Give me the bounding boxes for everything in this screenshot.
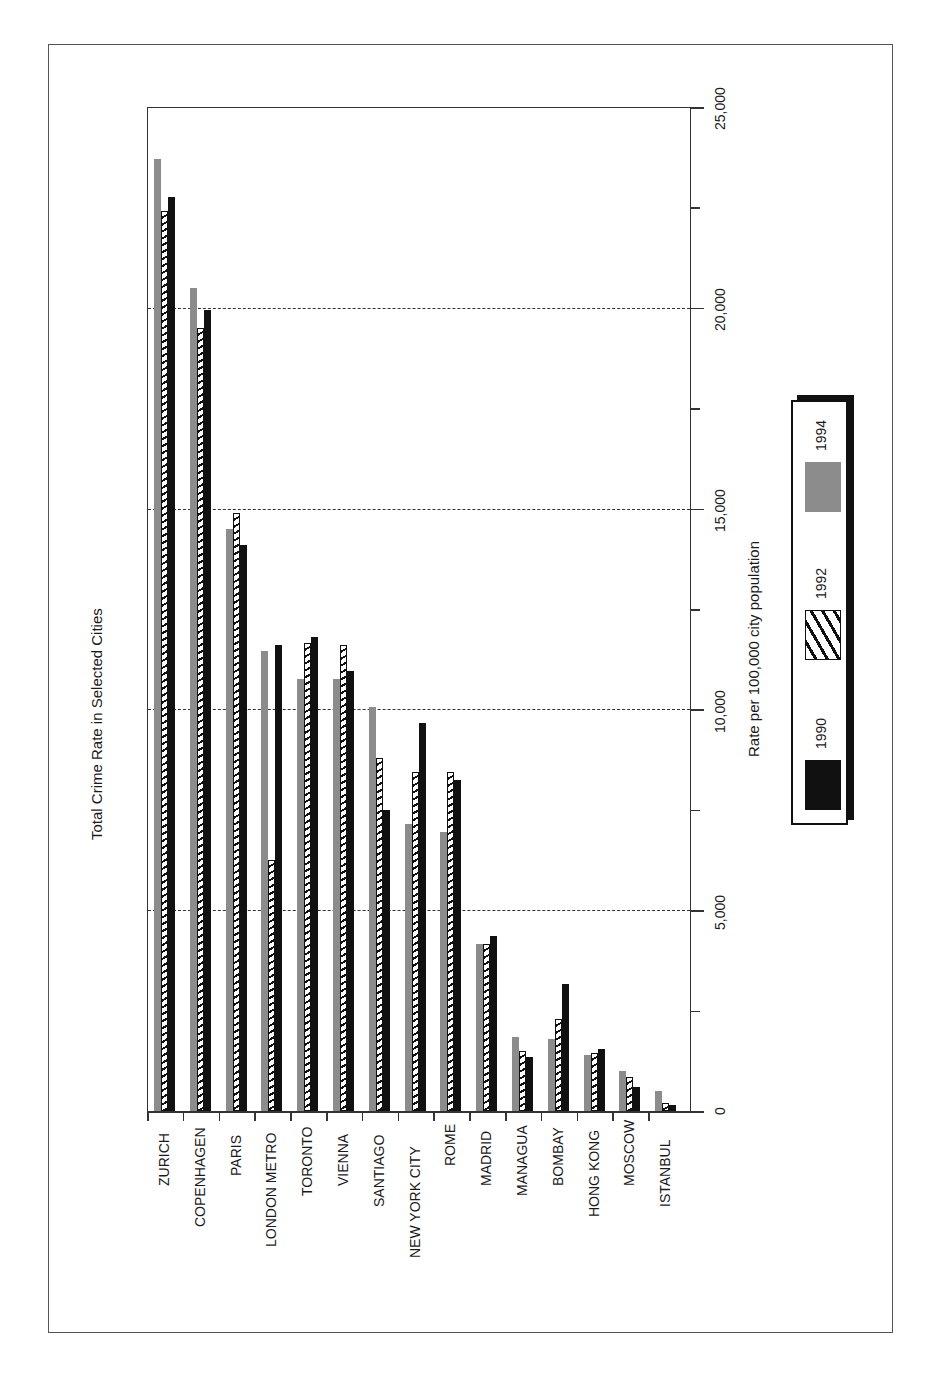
bar-1994 [440,832,447,1111]
bar-1994 [369,707,376,1111]
bar-1990 [347,671,354,1111]
category-label: ISTANBUL [657,1139,673,1206]
category-label: TORONTO [299,1127,315,1197]
category-label: MANAGUA [514,1126,530,1197]
x-tick [147,1111,149,1121]
bar-1992 [268,860,275,1111]
y-tick-label: 20,000 [712,288,728,331]
baseline-axis [147,1111,691,1113]
x-tick [398,1111,400,1121]
bar-1990 [669,1105,676,1111]
category-label: BOMBAY [550,1127,566,1186]
bar-1992 [197,328,204,1111]
legend: 1994 1992 1990 [791,400,848,825]
x-tick [612,1111,614,1121]
category-label: ZURICH [156,1133,172,1186]
y-tick [690,107,704,109]
x-tick [577,1111,579,1121]
y-tick [690,207,700,209]
x-tick [290,1111,292,1121]
y-tick [690,308,704,310]
y-tick [690,1111,704,1113]
x-tick [433,1111,435,1121]
x-tick [219,1111,221,1121]
y-tick [690,709,704,711]
bar-1992 [412,772,419,1111]
x-tick [326,1111,328,1121]
bar-1994 [190,288,197,1111]
bar-1994 [619,1071,626,1111]
y-tick [690,509,704,511]
category-label: NEW YORK CITY [407,1146,423,1258]
chart-title: Total Crime Rate in Selected Cities [88,608,105,840]
x-tick [541,1111,543,1121]
bar-1994 [333,679,340,1111]
legend-label-1994: 1994 [813,420,829,451]
x-tick [505,1111,507,1121]
bar-1992 [376,758,383,1111]
y-tick-label: 15,000 [712,489,728,532]
bar-1990 [311,637,318,1111]
category-label: LONDON METRO [263,1133,279,1247]
bar-1990 [419,723,426,1111]
bar-1990 [240,545,247,1111]
category-label: COPENHAGEN [192,1127,208,1227]
category-label: MOSCOW [621,1120,637,1186]
legend-swatch-1994 [805,462,841,512]
x-tick [362,1111,364,1121]
y-tick-label: 25,000 [712,88,728,131]
y-tick-label: 10,000 [712,690,728,733]
y-tick [690,910,704,912]
gridline [148,509,690,510]
y-tick-label: 5,000 [712,895,728,930]
y-tick [690,408,700,410]
legend-swatch-1990 [805,760,841,810]
category-label: VIENNA [335,1134,351,1186]
bar-1990 [383,810,390,1111]
bar-1992 [233,513,240,1111]
bar-1994 [226,529,233,1111]
bar-1992 [304,643,311,1111]
category-label: MADRID [478,1131,494,1186]
bar-1992 [555,1019,562,1111]
category-label: HONG KONG [586,1130,602,1217]
x-tick [648,1111,650,1121]
legend-label-1990: 1990 [813,718,829,749]
bar-1994 [512,1037,519,1111]
bar-1992 [340,645,347,1111]
x-tick [469,1111,471,1121]
x-tick [254,1111,256,1121]
category-label: PARIS [228,1135,244,1176]
bar-1990 [598,1049,605,1111]
legend-swatch-1992 [805,610,841,660]
y-tick [690,1011,700,1013]
bar-1992 [662,1103,669,1111]
bar-1994 [154,159,161,1111]
bar-1994 [476,944,483,1111]
y-tick [690,609,700,611]
bar-1990 [275,645,282,1111]
y-tick [690,810,700,812]
bar-1992 [626,1077,633,1111]
bar-1990 [562,984,569,1111]
bar-1994 [584,1055,591,1111]
category-label: ROME [442,1124,458,1166]
y-tick-label: 0 [712,1107,728,1115]
bar-1990 [168,197,175,1111]
bar-1992 [161,211,168,1111]
bar-1992 [519,1051,526,1111]
bar-1990 [526,1057,533,1111]
bar-1994 [261,651,268,1111]
category-label: SANTIAGO [371,1134,387,1206]
x-tick [183,1111,185,1121]
bar-1994 [405,824,412,1111]
bar-1992 [591,1053,598,1111]
gridline [148,308,690,309]
value-axis-title: Rate per 100,000 city population [745,541,762,757]
bar-1994 [548,1039,555,1111]
legend-label-1992: 1992 [813,568,829,599]
bar-1992 [483,944,490,1111]
bar-1992 [447,772,454,1111]
bar-1994 [297,679,304,1111]
bar-1990 [490,936,497,1111]
